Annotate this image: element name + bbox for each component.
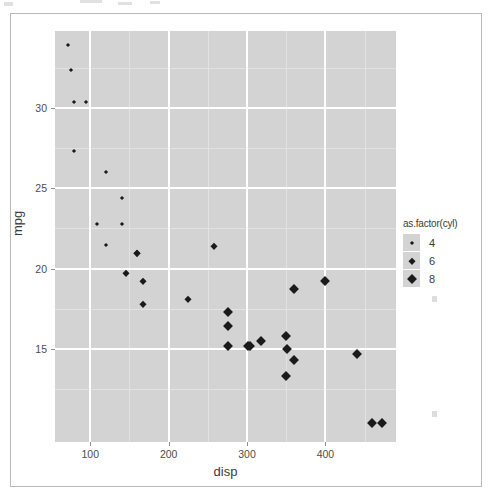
legend-item[interactable]: 8 xyxy=(403,270,481,287)
legend-items: 468 xyxy=(403,234,481,287)
legend-key-point-icon xyxy=(403,270,420,287)
data-point xyxy=(140,301,146,307)
data-point xyxy=(282,344,292,354)
y-axis-tick-label: 15 xyxy=(25,343,47,355)
data-point xyxy=(140,278,146,284)
data-point xyxy=(72,149,76,153)
y-axis-tick xyxy=(51,269,55,270)
diamond-icon xyxy=(407,274,417,284)
data-point xyxy=(84,100,88,104)
data-point xyxy=(120,222,124,226)
y-axis-title: mpg xyxy=(10,211,25,236)
gridline-major-vertical xyxy=(246,31,248,442)
scan-artifacts xyxy=(0,0,493,14)
data-point xyxy=(377,418,387,428)
gridline-major-horizontal xyxy=(55,107,396,109)
x-axis-tick xyxy=(247,442,248,446)
data-point xyxy=(352,349,362,359)
gridline-major-horizontal xyxy=(55,268,396,270)
legend-item-label: 4 xyxy=(429,237,435,249)
data-point xyxy=(289,285,299,295)
data-point xyxy=(134,249,140,255)
legend-item[interactable]: 6 xyxy=(403,252,481,269)
gridline-major-vertical xyxy=(168,31,170,442)
data-point xyxy=(120,196,124,200)
y-axis-tick xyxy=(51,349,55,350)
x-axis-tick-label: 200 xyxy=(160,448,178,460)
y-axis-tick-label: 30 xyxy=(25,102,47,114)
data-point xyxy=(104,242,108,246)
gridline-major-vertical xyxy=(89,31,91,442)
gridline-minor-horizontal xyxy=(55,68,396,69)
data-point xyxy=(223,321,233,331)
x-axis-tick-label: 400 xyxy=(317,448,335,460)
y-axis-tick xyxy=(51,188,55,189)
data-point xyxy=(104,170,108,174)
data-point xyxy=(281,371,291,381)
legend-item-label: 6 xyxy=(429,255,435,267)
data-point xyxy=(71,100,75,104)
data-point xyxy=(289,355,299,365)
x-axis-tick xyxy=(90,442,91,446)
plot-panel xyxy=(55,31,396,442)
gridline-major-vertical xyxy=(324,31,326,442)
x-axis-title: disp xyxy=(55,464,396,479)
gridline-minor-horizontal xyxy=(55,148,396,149)
data-point xyxy=(185,296,191,302)
margin-speck xyxy=(432,296,437,302)
data-point xyxy=(320,277,330,287)
legend-item[interactable]: 4 xyxy=(403,234,481,251)
data-point xyxy=(211,243,217,249)
y-axis-tick xyxy=(51,108,55,109)
data-point xyxy=(94,222,98,226)
data-point xyxy=(281,331,291,341)
legend-item-label: 8 xyxy=(429,273,435,285)
gridline-minor-vertical xyxy=(129,31,130,442)
y-axis-tick-label: 20 xyxy=(25,263,47,275)
gridline-minor-horizontal xyxy=(55,228,396,229)
legend: as.factor(cyl) 468 xyxy=(403,218,481,288)
gridline-minor-vertical xyxy=(208,31,209,442)
gridline-minor-vertical xyxy=(365,31,366,442)
margin-speck xyxy=(432,411,437,417)
x-axis-tick-label: 100 xyxy=(82,448,100,460)
figure-frame: mpg disp 10020030040015202530 as.factor(… xyxy=(10,13,482,487)
data-point xyxy=(122,270,128,276)
legend-title: as.factor(cyl) xyxy=(403,218,481,229)
data-point xyxy=(65,43,69,47)
data-point xyxy=(256,336,266,346)
x-axis-tick xyxy=(169,442,170,446)
gridline-major-horizontal xyxy=(55,187,396,189)
gridline-minor-horizontal xyxy=(55,389,396,390)
legend-key-point-icon xyxy=(403,234,420,251)
diamond-icon xyxy=(409,240,413,244)
diamond-icon xyxy=(408,257,414,263)
legend-key-point-icon xyxy=(403,252,420,269)
x-axis-tick-label: 300 xyxy=(238,448,256,460)
scatter-plot: mpg disp 10020030040015202530 as.factor(… xyxy=(11,14,483,488)
y-axis-tick-label: 25 xyxy=(25,182,47,194)
x-axis-tick xyxy=(325,442,326,446)
